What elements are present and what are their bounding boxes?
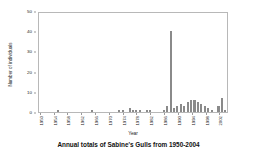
bar	[132, 110, 134, 112]
bar	[91, 110, 93, 112]
x-axis-tick-label: 1966	[95, 116, 99, 126]
x-axis-title: Year	[38, 131, 228, 136]
y-axis-tick-label: 50	[27, 10, 32, 14]
x-axis-tick-label: 1950	[40, 116, 44, 126]
plot-area	[38, 12, 228, 113]
x-axis-tick-label: 1998	[206, 116, 210, 126]
y-axis-tick-mark	[34, 113, 36, 114]
bar	[217, 106, 219, 112]
bar	[122, 110, 124, 112]
bar	[170, 31, 172, 112]
figure-container: Number of individuals 01020304050 195019…	[0, 0, 257, 154]
bar	[129, 108, 131, 112]
bar	[197, 102, 199, 112]
y-axis-tick-label: 30	[27, 50, 32, 54]
bar	[187, 102, 189, 112]
bar	[173, 108, 175, 112]
bar	[204, 106, 206, 112]
x-axis-tick-label: 1958	[67, 116, 71, 126]
bar	[135, 110, 137, 112]
y-axis-tick-mark	[34, 72, 36, 73]
x-axis-tick-group: 1950195419581962196619701974197819821986…	[38, 113, 228, 133]
x-axis-tick-label: 1982	[150, 116, 154, 126]
x-axis-tick-label: 1978	[136, 116, 140, 126]
x-axis-tick-label: 1974	[123, 116, 127, 126]
y-axis-tick-group: 01020304050	[0, 12, 36, 113]
bar	[57, 110, 59, 112]
y-axis-tick-mark	[34, 52, 36, 53]
x-axis-tick-label: 2002	[219, 116, 223, 126]
bar	[211, 110, 213, 112]
x-axis-tick-label: 1954	[54, 116, 58, 126]
bar	[207, 108, 209, 112]
x-axis-tick-label: 1986	[164, 116, 168, 126]
bar	[139, 110, 141, 112]
bar	[183, 106, 185, 112]
y-axis-tick-label: 0	[30, 111, 32, 115]
x-axis-tick-label: 1962	[81, 116, 85, 126]
figure-caption: Annual totals of Sabine's Gulls from 195…	[0, 141, 257, 149]
bar	[180, 104, 182, 112]
bar	[118, 110, 120, 112]
bar	[149, 110, 151, 112]
bar	[221, 98, 223, 112]
bar	[190, 100, 192, 112]
x-axis-tick-label: 1970	[109, 116, 113, 126]
x-axis-tick-label: 1990	[178, 116, 182, 126]
bar	[193, 100, 195, 112]
y-axis-tick-mark	[34, 92, 36, 93]
y-axis-tick-label: 10	[27, 91, 32, 95]
bar-series	[39, 13, 227, 112]
bar	[224, 110, 226, 112]
bar	[163, 110, 165, 112]
x-axis-tick-label: 1994	[192, 116, 196, 126]
y-axis-tick-mark	[34, 32, 36, 33]
bar	[176, 106, 178, 112]
bar	[146, 110, 148, 112]
y-axis-tick-mark	[34, 12, 36, 13]
y-axis-tick-label: 40	[27, 30, 32, 34]
bar	[166, 106, 168, 112]
bar	[200, 104, 202, 112]
y-axis-tick-label: 20	[27, 70, 32, 74]
